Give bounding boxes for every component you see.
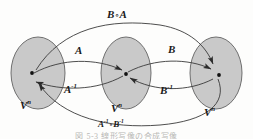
composition-label-bottom: A-1∘B-1 xyxy=(98,120,124,129)
composition-bottom-left-sup: -1 xyxy=(104,118,109,124)
map-label-a-inverse: A-1 xyxy=(64,84,77,95)
composition-label-top: B∘A xyxy=(107,9,127,20)
set-label-left-sup: n xyxy=(27,98,31,105)
map-label-b-inverse-sup: -1 xyxy=(167,83,173,90)
composition-bottom-right-sup: -1 xyxy=(119,118,124,124)
set-label-right: Vn xyxy=(204,107,215,118)
caption-strip: 図 5-3 線形写像の合成写像 xyxy=(0,130,253,139)
map-label-b-inverse: B-1 xyxy=(160,85,173,96)
set-ellipse-right xyxy=(190,37,242,109)
element-dot-middle xyxy=(124,72,128,76)
map-label-a-inverse-sup: -1 xyxy=(71,82,77,89)
element-dot-right xyxy=(217,73,221,77)
map-label-a: A xyxy=(75,45,82,56)
figure-commutative-diagram: Vn Vn Vn A A-1 B B-1 B∘A A-1∘B-1 図 5-3 線… xyxy=(0,0,253,139)
map-label-b: B xyxy=(168,44,175,55)
diagram-canvas xyxy=(0,0,253,139)
map-label-b-base: B xyxy=(168,43,175,55)
set-label-right-sup: n xyxy=(211,105,215,112)
map-label-a-base: A xyxy=(75,44,82,56)
element-dot-left xyxy=(30,71,34,75)
composition-top-right-base: A xyxy=(120,8,127,20)
set-label-left: Vn xyxy=(20,100,31,111)
figure-caption: 図 5-3 線形写像の合成写像 xyxy=(75,130,177,139)
set-label-middle: Vn xyxy=(111,103,122,114)
set-label-middle-sup: n xyxy=(118,101,122,108)
